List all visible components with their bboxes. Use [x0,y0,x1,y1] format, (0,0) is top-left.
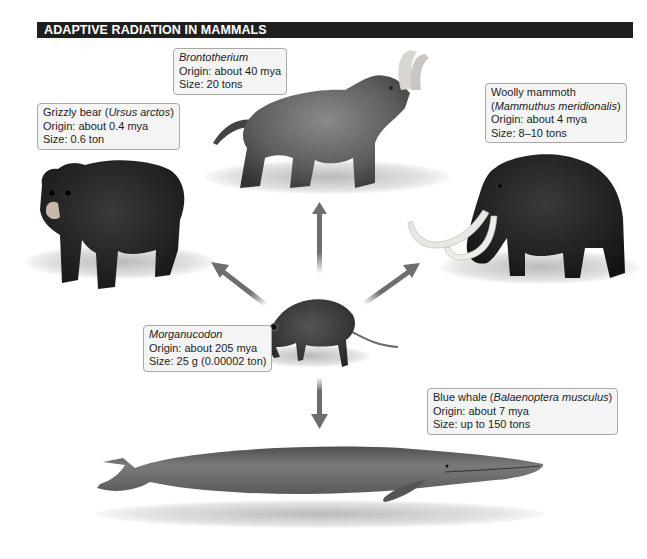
morganucodon-name: Morganucodon [149,328,266,342]
blue-whale-size: Size: up to 150 tons [433,418,612,432]
brontotherium-name: Brontotherium [179,51,281,65]
morganucodon-size: Size: 25 g (0.00002 ton) [149,355,266,369]
brontotherium-origin: Origin: about 40 mya [179,65,281,79]
brontotherium-size: Size: 20 tons [179,78,281,92]
morganucodon-origin: Origin: about 205 mya [149,342,266,356]
woolly-mammoth-size: Size: 8–10 tons [491,127,621,141]
woolly-mammoth-common-name: Woolly mammoth [491,86,621,100]
woolly-mammoth-scientific-name: (Mammuthus meridionalis) [491,100,621,114]
grizzly-bear-name: Grizzly bear (Ursus arctos) [43,106,174,120]
woolly-mammoth-label: Woolly mammoth (Mammuthus meridionalis) … [485,83,627,143]
grizzly-bear-size: Size: 0.6 ton [43,133,174,147]
blue-whale-label: Blue whale (Balaenoptera musculus) Origi… [427,388,618,435]
woolly-mammoth-illustration-icon [405,148,645,290]
blue-whale-illustration-icon [95,440,545,515]
woolly-mammoth-origin: Origin: about 4 mya [491,113,621,127]
arrow-up-icon [312,202,327,274]
grizzly-bear-label: Grizzly bear (Ursus arctos) Origin: abou… [37,103,180,150]
grizzly-bear-origin: Origin: about 0.4 mya [43,120,174,134]
morganucodon-illustration-icon [258,285,408,380]
blue-whale-name: Blue whale (Balaenoptera musculus) [433,391,612,405]
brontotherium-label: Brontotherium Origin: about 40 mya Size:… [173,48,287,95]
grizzly-bear-illustration-icon [30,155,190,295]
blue-whale-origin: Origin: about 7 mya [433,405,612,419]
morganucodon-label: Morganucodon Origin: about 205 mya Size:… [143,325,272,372]
arrow-down-icon [311,377,328,429]
